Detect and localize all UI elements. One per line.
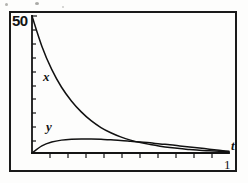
curve-x-series <box>32 16 229 152</box>
curve-x-label: x <box>43 70 50 83</box>
x-axis-corner-label: 1 <box>224 158 231 171</box>
y-axis-max-label: 50 <box>12 13 28 28</box>
curve-y-label: y <box>46 120 52 133</box>
figure-container: 50 x y t 1 <box>0 0 248 183</box>
x-axis-label: t <box>231 139 235 152</box>
plot-canvas <box>0 0 248 183</box>
